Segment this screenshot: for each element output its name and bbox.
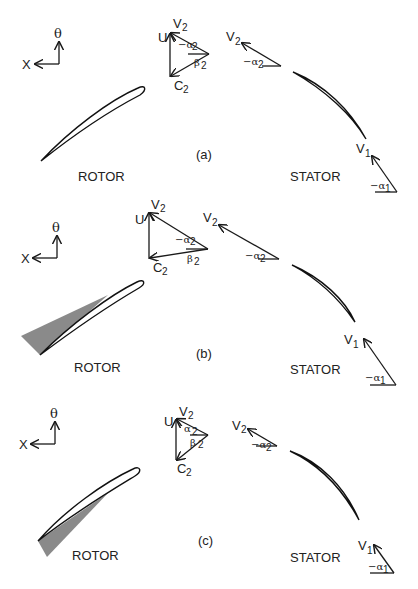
alpha2-label: −α [251,439,266,450]
rotor-blade [38,468,140,541]
alpha1-subscript: 1 [383,564,389,575]
v2-subscript: 2 [241,424,247,435]
theta-axis-label: θ [52,220,60,235]
coordinate-axes: θ X [21,220,60,266]
v1-subscript: 1 [367,545,373,556]
alpha1-subscript: 1 [385,183,391,194]
alpha2-subscript: 2 [192,41,198,52]
u-label: U [164,414,173,429]
beta2-subscript: 2 [194,256,200,267]
stator-blade [292,265,355,322]
turbine-stage-diagram: θ X ROTOR V 2 U −α 2 β 2 C 2 V 2 −α [0,0,418,589]
v1-label: V [344,332,353,347]
stator-inlet-triangle: V 2 −α 2 [203,210,279,264]
alpha1-subscript: 1 [380,375,386,386]
rotor-wake-shading [21,295,108,355]
alpha2-subscript: 2 [260,253,266,264]
alpha2-subscript: 2 [258,59,264,70]
v2-subscript: 2 [235,36,241,47]
beta2-label: β [190,437,196,448]
stator-outlet-triangle: V 1 −α 1 [344,332,396,386]
alpha2-subscript: 2 [266,442,272,453]
beta2-label: β [187,253,193,264]
alpha2-label: −α [175,234,190,245]
alpha2-label: −α [245,250,260,261]
alpha1-label: −α [365,372,380,383]
v1-subscript: 1 [365,148,371,159]
v2-subscript: 2 [160,203,166,214]
v1-subscript: 1 [353,339,359,350]
c2-subscript: 2 [162,266,168,277]
v1-label: V [356,141,365,156]
stator-outlet-triangle: V 1 −α 1 [358,538,394,575]
c2-label: C [177,461,186,476]
panel-c: θ X ROTOR V 2 U α 2 β 2 C 2 V 2 −α 2 [19,404,394,575]
panel-caption-c: (c) [198,533,213,548]
theta-axis-label: θ [50,406,58,421]
v2-subscript: 2 [182,22,188,33]
panel-a: θ X ROTOR V 2 U −α 2 β 2 C 2 V 2 −α [22,16,397,194]
c2-label: C [153,260,162,275]
stator-outlet-triangle: V 1 −α 1 [356,141,397,194]
stator-inlet-triangle: V 2 −α 2 [226,29,281,70]
c2-label: C [174,78,183,93]
theta-axis-label: θ [54,26,62,41]
c2-subscript: 2 [186,467,192,478]
stator-label: STATOR [290,362,341,377]
v2-label: V [203,210,212,225]
coordinate-axes: θ X [19,406,58,452]
x-axis-label: X [19,437,28,452]
coordinate-axes: θ X [22,26,62,72]
u-label: U [158,30,167,45]
stator-blade [290,451,359,520]
v1-label: V [358,538,367,553]
alpha1-label: −α [368,561,383,572]
beta2-label: β [194,57,200,68]
beta2-subscript: 2 [201,60,207,71]
rotor-velocity-triangle: V 2 U −α 2 β 2 C 2 [135,197,208,277]
rotor-velocity-triangle: V 2 U −α 2 β 2 C 2 [158,16,209,95]
alpha2-subscript: 2 [192,426,198,437]
v2-label: V [232,418,241,433]
stator-blade [293,72,366,139]
v2-subscript: 2 [188,410,194,421]
alpha2-subscript: 2 [190,236,196,247]
v2-label: V [151,197,160,212]
stator-label: STATOR [290,169,341,184]
x-axis-label: X [22,57,31,72]
c2-subscript: 2 [183,84,189,95]
v2-label: V [173,16,182,31]
v2-label: V [226,29,235,44]
rotor-blade [40,281,144,355]
panel-caption-b: (b) [196,346,212,361]
alpha2-label: −α [243,56,258,67]
alpha1-label: −α [370,180,385,191]
panel-caption-a: (a) [196,147,212,162]
rotor-label: ROTOR [78,169,125,184]
panel-b: θ X ROTOR V 2 U −α 2 β 2 C 2 V 2 −α [21,197,396,386]
rotor-velocity-triangle: V 2 U α 2 β 2 C 2 [164,404,208,478]
beta2-subscript: 2 [198,439,204,450]
rotor-label: ROTOR [72,548,119,563]
x-axis-label: X [21,251,30,266]
alpha2-label: α [184,423,191,434]
stator-label: STATOR [290,550,341,565]
u-label: U [135,212,144,227]
v2-subscript: 2 [212,217,218,228]
rotor-label: ROTOR [74,360,121,375]
stator-inlet-triangle: V 2 −α 2 [232,418,277,453]
rotor-blade [41,87,145,161]
v2-label: V [179,404,188,419]
